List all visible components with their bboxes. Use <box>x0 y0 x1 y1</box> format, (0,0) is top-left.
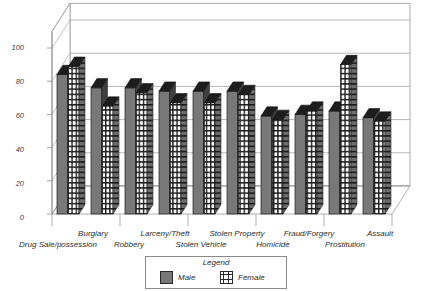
legend-item-male[interactable]: Male <box>160 271 195 284</box>
bar-female-9 <box>375 112 391 214</box>
bar-female-7 <box>307 102 323 214</box>
bar-female-8 <box>341 55 357 214</box>
legend-item-female[interactable]: Female <box>220 271 265 284</box>
legend-label-female: Female <box>238 273 265 282</box>
x-label-prostitution: Prostitution <box>325 240 365 249</box>
legend: Legend Male Female <box>145 256 287 289</box>
x-label-drug-sale: Drug Sale/possession <box>19 240 97 249</box>
y-tick-60: 60 <box>0 111 24 120</box>
y-tick-0: 0 <box>0 213 24 222</box>
chart-root: percentage testing positive for any drug… <box>0 0 425 291</box>
y-tick-20: 20 <box>0 179 24 188</box>
bar-female-0 <box>69 57 85 214</box>
x-label-larceny-theft: Larceny/Theft <box>141 229 190 238</box>
legend-title: Legend <box>146 258 286 267</box>
bar-female-4 <box>205 94 221 214</box>
bar-female-1 <box>103 97 119 214</box>
y-tick-40: 40 <box>0 145 24 154</box>
legend-swatch-female-icon <box>220 271 233 284</box>
legend-swatch-male-icon <box>160 271 173 284</box>
legend-label-male: Male <box>178 273 195 282</box>
legend-items: Male Female <box>146 271 286 285</box>
x-label-stolen-property: Stolen Property <box>209 229 264 238</box>
x-label-homicide: Homicide <box>256 240 289 249</box>
y-tick-100: 100 <box>0 43 24 52</box>
x-label-stolen-vehicle: Stolen Vehicle <box>176 240 227 249</box>
bar-female-2 <box>137 84 153 214</box>
y-tick-80: 80 <box>0 77 24 86</box>
bar-female-6 <box>273 110 289 214</box>
x-label-robbery: Robbery <box>114 240 144 249</box>
category-ticks <box>52 214 392 226</box>
x-label-assault: Assault <box>367 229 393 238</box>
bar-female-3 <box>171 94 187 214</box>
x-label-fraud-forgery: Fraud/Forgery <box>284 229 335 238</box>
x-label-burglary: Burglary <box>78 229 108 238</box>
bar-female-5 <box>239 85 255 214</box>
